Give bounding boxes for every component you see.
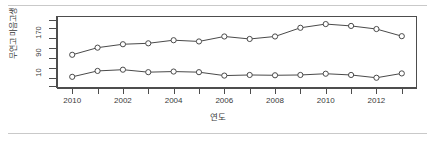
data-point-marker (95, 45, 100, 50)
x-tick-label: 2010 (306, 96, 346, 105)
y-tick-mark (49, 20, 56, 21)
y-tick-mark (49, 68, 56, 69)
x-tick-mark (351, 88, 352, 94)
bottom-divider (8, 133, 427, 134)
data-point-marker (298, 25, 303, 30)
data-point-marker (196, 70, 201, 75)
x-tick-mark (224, 88, 225, 94)
data-point-marker (374, 75, 379, 80)
data-point-marker (196, 39, 201, 44)
x-tick-mark (199, 88, 200, 94)
x-tick-mark (72, 88, 73, 94)
y-tick-mark (49, 86, 56, 87)
y-tick-mark (49, 48, 56, 49)
data-point-marker (120, 67, 125, 72)
data-point-marker (95, 68, 100, 73)
x-tick-label: 2004 (154, 96, 194, 105)
data-point-marker (323, 21, 328, 26)
x-axis-title: 연도 (0, 110, 435, 122)
data-point-marker (348, 72, 353, 77)
x-tick-label: 2010 (52, 96, 92, 105)
top-divider (8, 5, 427, 6)
data-point-marker (272, 34, 277, 39)
y-tick-mark (49, 28, 56, 29)
x-tick-label: 2006 (204, 96, 244, 105)
x-tick-mark (402, 88, 403, 94)
data-point-marker (323, 71, 328, 76)
data-point-marker (70, 74, 75, 79)
y-tick-mark (49, 58, 56, 59)
data-point-marker (374, 26, 379, 31)
x-tick-mark (275, 88, 276, 94)
x-tick-mark (326, 88, 327, 94)
y-axis-title: 무연고 마음고생 (7, 0, 18, 70)
data-point-marker (146, 70, 151, 75)
x-tick-label: 2002 (103, 96, 143, 105)
plot-area: 무연고 마음고생 10 90 170 201020022004200620082… (0, 10, 435, 132)
y-tick-label-10: 10 (34, 63, 43, 83)
data-point-marker (222, 73, 227, 78)
y-tick-mark (49, 78, 56, 79)
data-point-marker (70, 52, 75, 57)
chart-figure-root: 무연고 마음고생 10 90 170 201020022004200620082… (0, 0, 435, 144)
data-point-marker (146, 41, 151, 46)
data-point-marker (171, 38, 176, 43)
y-tick-label-90: 90 (34, 43, 43, 63)
x-axis-spine (57, 88, 417, 89)
data-point-marker (120, 42, 125, 47)
data-point-marker (222, 34, 227, 39)
x-tick-label: 2008 (255, 96, 295, 105)
x-tick-mark (376, 88, 377, 94)
data-series-layer (57, 16, 417, 88)
x-tick-mark (98, 88, 99, 94)
data-point-marker (247, 72, 252, 77)
data-point-marker (399, 34, 404, 39)
x-tick-mark (123, 88, 124, 94)
data-point-marker (272, 73, 277, 78)
data-point-marker (399, 71, 404, 76)
x-tick-mark (174, 88, 175, 94)
x-tick-mark (300, 88, 301, 94)
data-point-marker (348, 23, 353, 28)
y-tick-mark (49, 38, 56, 39)
data-point-marker (247, 36, 252, 41)
data-point-marker (298, 72, 303, 77)
y-tick-label-170: 170 (34, 23, 43, 43)
data-point-marker (171, 69, 176, 74)
x-tick-mark (250, 88, 251, 94)
x-tick-label: 2012 (356, 96, 396, 105)
x-tick-mark (148, 88, 149, 94)
